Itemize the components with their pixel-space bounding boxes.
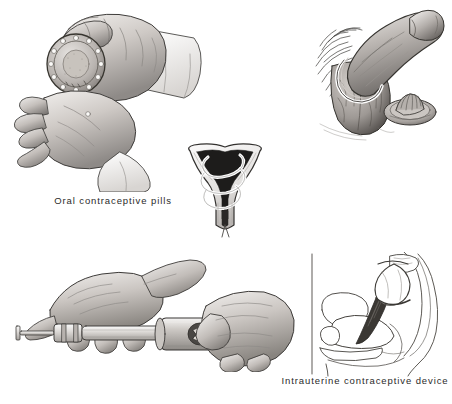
lower-open-palm <box>14 91 150 192</box>
panel-condom: Condom <box>300 0 452 168</box>
panel-diaphragm: Diaphragm <box>296 252 452 400</box>
panel-intrauterine-device: Intrauterine contraceptive device <box>140 133 310 258</box>
applicator-barrel <box>54 324 162 342</box>
spermicidal-foam-illustration <box>10 254 296 372</box>
right-hand <box>196 291 294 372</box>
condom-illustration <box>304 2 450 142</box>
diaphragm-illustration <box>298 252 450 377</box>
rolled-condom <box>384 94 436 125</box>
penis <box>347 10 444 96</box>
panel-spermicidal-foam: Spermicidal vaginal foam and applicator <box>8 252 298 400</box>
circular-pill-dial <box>47 34 105 94</box>
intrauterine-device-illustration <box>170 133 280 238</box>
cervical-canal <box>222 210 228 227</box>
illustration-plate: Oral contraceptive pills <box>0 0 452 404</box>
